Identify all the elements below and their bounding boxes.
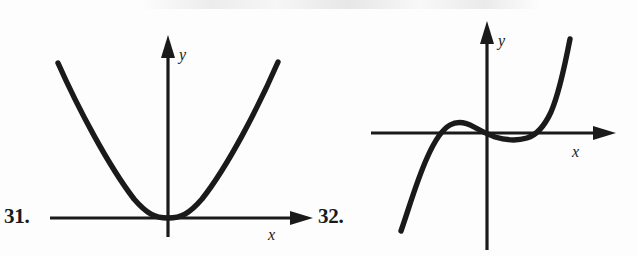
graph-32: y x [0, 0, 637, 256]
y-axis-arrowhead-32 [480, 21, 494, 44]
y-axis-label-32: y [496, 32, 506, 50]
worksheet-page: 31. y x 32. [0, 0, 637, 256]
x-axis-arrowhead-32 [593, 126, 616, 140]
x-axis-label-32: x [571, 143, 579, 160]
